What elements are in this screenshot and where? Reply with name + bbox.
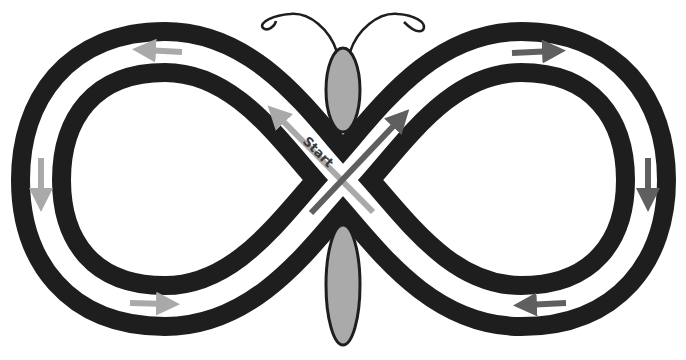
figure-eight-diagram: Start (0, 0, 686, 360)
arrow-left-top-icon (144, 50, 182, 52)
arrow-left-bottom-icon (130, 303, 168, 304)
antenna-left-icon (262, 14, 337, 52)
butterfly-lower-wing-icon (326, 225, 360, 345)
antenna-right-icon (350, 14, 424, 52)
arrow-right-bottom-icon (525, 303, 566, 305)
arrow-right-top-icon (512, 51, 554, 53)
butterfly-upper-wing-icon (326, 48, 360, 132)
